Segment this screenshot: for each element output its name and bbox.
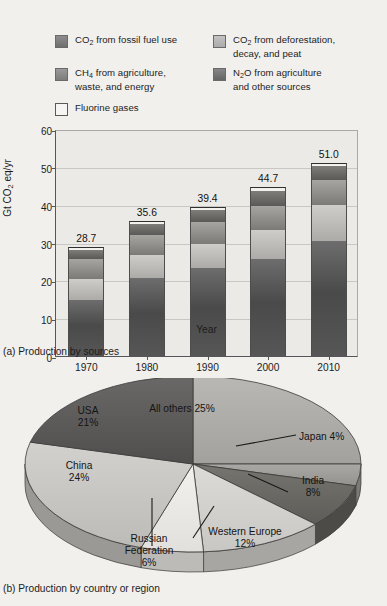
pie-label-usa-name: USA xyxy=(78,405,99,416)
bar-segment-ch4 xyxy=(129,235,165,255)
bar-segment-defor xyxy=(129,255,165,278)
fossil-co2-swatch-icon xyxy=(55,35,68,48)
bar-total-label: 44.7 xyxy=(258,173,278,184)
x-axis-tick xyxy=(329,356,330,360)
pie-slice-all-others[interactable] xyxy=(193,378,361,464)
legend-label-fossil-co2: CO2 from fossil fuel use xyxy=(75,34,177,48)
y-axis-tick-label: 10 xyxy=(41,315,52,326)
x-axis-tick-label-2010: 2010 xyxy=(317,362,340,373)
legend-label-ch4: CH4 from agriculture,waste, and energy xyxy=(75,67,166,92)
fluorine-swatch-icon xyxy=(55,103,68,116)
legend-item-deforestation-co2: CO2 from deforestation,decay, and peat xyxy=(213,34,353,59)
deforestation-co2-swatch-icon xyxy=(213,35,226,48)
bar-segment-ch4 xyxy=(250,206,286,231)
legend-label-n2o: N2O from agricultureand other sources xyxy=(233,67,322,92)
bar-segment-defor xyxy=(250,230,286,258)
legend-item-ch4: CH4 from agriculture,waste, and energy xyxy=(55,67,205,92)
bar-segment-fossil xyxy=(190,268,226,356)
pie-label-china-name: China xyxy=(66,460,93,471)
bar-segment-ch4 xyxy=(190,222,226,244)
pie-label-russia-pct: 6% xyxy=(142,557,157,568)
y-axis-tick-label: 50 xyxy=(41,163,52,174)
bar-1980[interactable]: 35.61980 xyxy=(129,221,165,356)
bar-segment-defor xyxy=(68,279,104,300)
x-axis-tick-label-1990: 1990 xyxy=(196,362,219,373)
y-axis-tick xyxy=(52,206,56,207)
y-axis-tick-label: 30 xyxy=(41,239,52,250)
legend-item-fluorine: Fluorine gases xyxy=(55,102,205,116)
pie-label-western-europe-pct: 12% xyxy=(235,538,255,549)
bar-total-label: 51.0 xyxy=(319,149,339,160)
pie-label-russia-line2: Federation xyxy=(125,545,174,556)
pie-label-usa-pct: 21% xyxy=(78,417,98,428)
bar-segment-n2o xyxy=(190,210,226,222)
legend-item-n2o: N2O from agricultureand other sources xyxy=(213,67,353,92)
pie-label-western-europe: Western Europe 12% xyxy=(190,526,300,550)
x-axis-tick xyxy=(268,356,269,360)
pie-label-all-others: All others 25% xyxy=(122,403,242,415)
pie-label-russia-line1: Russian xyxy=(131,533,168,544)
y-axis-label: Gt CO2 eq/yr xyxy=(2,128,13,248)
bar-segment-n2o xyxy=(250,191,286,206)
pie-label-india-name: India xyxy=(302,475,324,486)
legend-item-fossil-co2: CO2 from fossil fuel use xyxy=(55,34,205,48)
pie-label-india: India 8% xyxy=(280,475,346,499)
chart-legend: CO2 from fossil fuel use CO2 from defore… xyxy=(0,32,387,124)
y-axis-tick xyxy=(52,131,56,132)
pie-label-china-pct: 24% xyxy=(69,472,89,483)
y-axis-tick xyxy=(52,358,56,359)
pie-label-india-pct: 8% xyxy=(306,487,321,498)
legend-label-fluorine: Fluorine gases xyxy=(75,102,139,114)
bar-total-label: 35.6 xyxy=(137,207,157,218)
bar-segment-fossil xyxy=(311,241,347,356)
bar-segment-defor xyxy=(311,205,347,241)
x-axis-tick-label-1970: 1970 xyxy=(75,362,98,373)
x-axis-label: Year xyxy=(55,324,358,335)
x-axis-tick xyxy=(147,356,148,360)
bar-total-label: 28.7 xyxy=(76,233,96,244)
y-axis-tick xyxy=(52,320,56,321)
bar-segment-n2o xyxy=(68,250,104,259)
pie-label-japan: Japan 4% xyxy=(299,431,383,443)
legend-label-deforestation-co2: CO2 from deforestation,decay, and peat xyxy=(233,34,335,59)
bar-segment-n2o xyxy=(311,166,347,179)
bar-1970[interactable]: 28.71970 xyxy=(68,247,104,356)
y-axis-tick xyxy=(52,244,56,245)
pie-label-russia: Russian Federation 6% xyxy=(104,533,194,570)
n2o-swatch-icon xyxy=(213,68,226,81)
bar-segment-defor xyxy=(190,244,226,268)
bar-segment-ch4 xyxy=(68,259,104,279)
bar-segment-n2o xyxy=(129,224,165,235)
x-axis-tick-label-1980: 1980 xyxy=(136,362,159,373)
y-axis-tick xyxy=(52,168,56,169)
panel-b-pie-chart: USA 21% All others 25% Japan 4% India 8%… xyxy=(0,378,387,606)
y-axis-tick-label: 40 xyxy=(41,201,52,212)
y-axis-tick-label: 20 xyxy=(41,277,52,288)
bar-segment-fossil xyxy=(129,278,165,356)
bar-segment-fossil xyxy=(250,259,286,356)
bar-plot-area: 0102030405060 28.7197035.6198039.4199044… xyxy=(55,130,358,357)
pie-label-usa: USA 21% xyxy=(58,405,118,429)
bar-segment-ch4 xyxy=(311,180,347,205)
bar-total-label: 39.4 xyxy=(197,193,217,204)
ch4-swatch-icon xyxy=(55,68,68,81)
pie-label-western-europe-name: Western Europe xyxy=(208,526,281,537)
panel-b-caption: (b) Production by country or region xyxy=(3,583,160,594)
y-axis-tick-label: 60 xyxy=(41,126,52,137)
figure-greenhouse-gas-production: CO2 from fossil fuel use CO2 from defore… xyxy=(0,0,387,606)
panel-a-caption: (a) Production by sources xyxy=(3,346,119,357)
panel-a-bar-chart: Gt CO2 eq/yr 0102030405060 28.7197035.61… xyxy=(0,124,387,369)
x-axis-tick-label-2000: 2000 xyxy=(257,362,280,373)
x-axis-tick xyxy=(208,356,209,360)
y-axis-tick xyxy=(52,282,56,283)
pie-label-china: China 24% xyxy=(42,460,116,484)
